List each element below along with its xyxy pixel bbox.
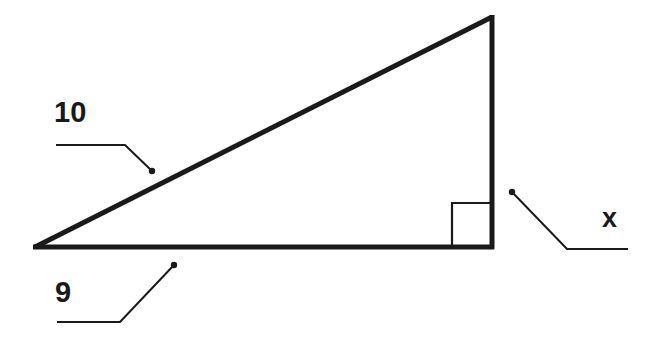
hypotenuse-leader [56, 145, 155, 174]
base-label: 9 [55, 278, 71, 307]
triangle-svg [0, 0, 656, 345]
triangle [33, 15, 494, 249]
base-leader [57, 262, 177, 322]
triangle-diagram: 10 9 x [0, 0, 656, 345]
hypotenuse-label: 10 [54, 98, 86, 127]
base-leader-dot [171, 262, 177, 268]
hypotenuse-line [35, 17, 492, 247]
right-angle-marker [452, 203, 490, 247]
vertical-leg-label: x [602, 205, 617, 232]
vertical-leg-leader-dot [509, 189, 515, 195]
hypotenuse-leader-dot [149, 168, 155, 174]
